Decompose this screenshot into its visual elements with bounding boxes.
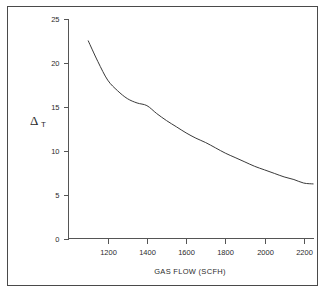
plot-area: 0510152025 120014001600180020002200 Δ T …	[0, 0, 325, 293]
y-tick-label: 20	[51, 59, 59, 68]
x-axis-tick-labels: 120014001600180020002200	[100, 248, 313, 257]
y-axis-title-symbol: Δ	[30, 113, 38, 128]
x-tick-label: 1400	[139, 248, 156, 257]
x-axis-title: GAS FLOW (SCFH)	[154, 267, 226, 276]
y-axis-ticks	[64, 20, 69, 240]
x-tick-label: 2200	[296, 248, 313, 257]
x-tick-label: 1200	[100, 248, 117, 257]
x-tick-label: 1600	[178, 248, 195, 257]
chart-figure: 0510152025 120014001600180020002200 Δ T …	[0, 0, 325, 293]
y-tick-label: 25	[51, 15, 59, 24]
x-tick-label: 2000	[257, 248, 274, 257]
y-tick-label: 0	[55, 235, 59, 244]
y-tick-label: 5	[55, 191, 59, 200]
y-axis-tick-labels: 0510152025	[51, 15, 59, 244]
x-axis-ticks	[109, 239, 305, 244]
y-axis-title-subscript: T	[41, 120, 46, 129]
y-tick-label: 10	[51, 147, 59, 156]
x-tick-label: 1800	[217, 248, 234, 257]
data-series-curve	[88, 41, 313, 184]
y-tick-label: 15	[51, 103, 59, 112]
